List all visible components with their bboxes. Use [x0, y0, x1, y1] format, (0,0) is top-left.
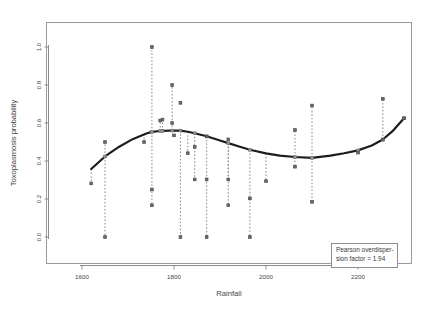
- observed-point-marker: [205, 236, 208, 239]
- observed-point-marker: [151, 188, 154, 191]
- x-axis: 1600180020002200: [75, 266, 365, 281]
- observed-point-marker: [151, 204, 154, 207]
- legend-line-1: Pearson overdisper-: [336, 246, 394, 255]
- y-axis-tick-label: 0.2: [35, 194, 42, 203]
- legend-line-2: sion factor = 1.94: [336, 255, 394, 264]
- observed-point-marker: [179, 102, 182, 105]
- overdispersion-legend: Pearson overdisper- sion factor = 1.94: [331, 243, 398, 268]
- observed-point-marker: [381, 98, 384, 101]
- figure-container: 0.00.20.40.60.81.0 1600180020002200 Rain…: [0, 0, 438, 310]
- fitted-point-marker: [249, 148, 252, 151]
- y-axis-tick-label: 0.0: [35, 232, 42, 241]
- residual-lines-group: [91, 47, 383, 237]
- observed-point-marker: [186, 152, 189, 155]
- observed-point-marker: [227, 138, 230, 141]
- observed-point-marker: [357, 151, 360, 154]
- observed-point-marker: [104, 141, 107, 144]
- observed-point-marker: [193, 178, 196, 181]
- observed-point-marker: [90, 182, 93, 185]
- observed-point-marker: [227, 204, 230, 207]
- y-axis-title: Toxoplasmosis probability: [9, 100, 18, 187]
- observed-point-marker: [205, 135, 208, 138]
- x-axis-tick-label: 1600: [75, 273, 89, 280]
- observed-point-marker: [171, 122, 174, 125]
- x-axis-title: Rainfall: [216, 289, 242, 298]
- x-axis-tick-label: 2000: [259, 273, 273, 280]
- y-axis-tick-label: 0.6: [35, 118, 42, 127]
- fitted-point-marker: [179, 129, 182, 132]
- fitted-curve: [91, 118, 404, 169]
- fitted-point-marker: [104, 155, 107, 158]
- observed-point-marker: [311, 201, 314, 204]
- observed-point-marker: [294, 165, 297, 168]
- observed-point-marker: [249, 236, 252, 239]
- fitted-point-marker: [294, 156, 297, 159]
- y-axis-tick-label: 0.4: [35, 156, 42, 165]
- observed-point-marker: [311, 104, 314, 107]
- observed-point-marker: [294, 129, 297, 132]
- x-axis-tick-label: 1800: [167, 273, 181, 280]
- observed-point-marker: [227, 178, 230, 181]
- y-axis-tick-label: 1.0: [35, 42, 42, 51]
- observed-point-marker: [205, 178, 208, 181]
- observed-point-marker: [173, 134, 176, 137]
- observed-point-marker: [179, 236, 182, 239]
- fitted-point-marker: [171, 129, 174, 132]
- x-axis-tick-label: 2200: [351, 273, 365, 280]
- fitted-point-marker: [193, 132, 196, 135]
- observed-points-group: [90, 46, 406, 239]
- observed-point-marker: [143, 141, 146, 144]
- fitted-point-marker: [227, 142, 230, 145]
- fitted-point-marker: [151, 131, 154, 134]
- observed-point-marker: [104, 236, 107, 239]
- observed-point-marker: [265, 180, 268, 183]
- observed-point-marker: [381, 138, 384, 141]
- observed-point-marker: [161, 118, 164, 121]
- observed-point-marker: [151, 46, 154, 49]
- fitted-point-marker: [311, 157, 314, 160]
- observed-point-marker: [403, 117, 406, 120]
- y-axis-tick-label: 0.8: [35, 80, 42, 89]
- fitted-points-group: [104, 117, 406, 159]
- fitted-point-marker: [161, 130, 164, 133]
- observed-point-marker: [171, 84, 174, 87]
- observed-point-marker: [193, 146, 196, 149]
- observed-point-marker: [249, 197, 252, 200]
